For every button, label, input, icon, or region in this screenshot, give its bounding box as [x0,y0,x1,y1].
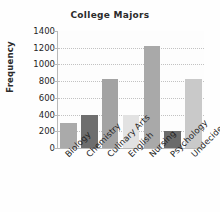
y-axis-label: Frequency [5,31,15,103]
y-tick-label: 200 [15,126,55,136]
y-tick-label: 400 [15,110,55,120]
y-tick-label: 800 [15,76,55,86]
chart-title: College Majors [0,10,220,20]
y-tick-label: 1400 [15,26,55,36]
x-axis-ticks: BiologyChemistryCulinary ArtsEnglishNurs… [0,148,220,212]
y-tick-label: 600 [15,93,55,103]
bar-chart: College Majors Frequency 020040060080010… [0,0,220,212]
y-tick-label: 1200 [15,43,55,53]
y-tick-label: 1000 [15,59,55,69]
